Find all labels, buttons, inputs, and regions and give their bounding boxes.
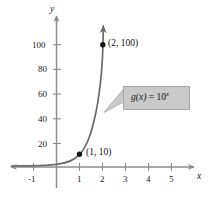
callout-fn: g(x) bbox=[131, 92, 146, 102]
exponential-curve bbox=[12, 26, 104, 166]
callout-eq: = 10 bbox=[146, 92, 166, 102]
x-tick-label-4: 4 bbox=[146, 175, 151, 184]
data-point-2-100 bbox=[100, 42, 105, 47]
x-axis-label: x bbox=[197, 172, 201, 182]
y-tick-label-20: 20 bbox=[38, 140, 47, 149]
point-label-2-100: (2, 100) bbox=[108, 39, 138, 49]
x-tick-label-3: 3 bbox=[123, 175, 128, 184]
data-point-1-10 bbox=[77, 152, 82, 157]
x-tick-label-2: 2 bbox=[100, 175, 105, 184]
y-axis-label: y bbox=[50, 5, 54, 15]
x-tick-label-5: 5 bbox=[169, 175, 174, 184]
function-callout-label: g(x) = 10x bbox=[131, 93, 169, 103]
point-label-1-10: (1, 10) bbox=[86, 148, 111, 158]
x-tick-label-neg1: -1 bbox=[28, 175, 36, 184]
y-tick-label-100: 100 bbox=[32, 41, 46, 50]
y-tick-label-40: 40 bbox=[38, 115, 47, 124]
exponential-function-graph: 20 40 60 80 100 -1 1 2 3 4 5 y x (1, 10)… bbox=[0, 0, 209, 198]
y-tick-label-80: 80 bbox=[38, 65, 47, 74]
x-tick-label-1: 1 bbox=[77, 175, 82, 184]
y-tick-label-60: 60 bbox=[38, 90, 47, 99]
callout-pointer bbox=[104, 89, 124, 113]
callout-exponent: x bbox=[166, 90, 169, 97]
